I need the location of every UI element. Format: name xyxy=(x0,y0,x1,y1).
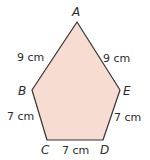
vertex-label-d: D xyxy=(100,143,109,157)
side-label-ab: 9 cm xyxy=(17,51,44,64)
side-label-ed: 7 cm xyxy=(114,111,141,124)
pentagon-diagram: A B E C D 9 cm 9 cm 7 cm 7 cm 7 cm xyxy=(0,0,150,160)
vertex-label-e: E xyxy=(123,84,131,98)
side-label-cd: 7 cm xyxy=(62,144,89,157)
vertex-label-a: A xyxy=(71,5,80,19)
side-label-bc: 7 cm xyxy=(7,110,34,123)
side-label-ae: 9 cm xyxy=(103,52,130,65)
vertex-label-c: C xyxy=(41,143,50,157)
vertex-label-b: B xyxy=(18,84,26,98)
pentagon-shape xyxy=(32,22,120,140)
